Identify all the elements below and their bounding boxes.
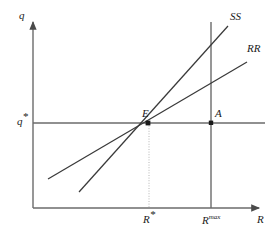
y-axis-label: q [19, 10, 25, 21]
tick-label-q-star-sup: * [23, 110, 29, 122]
curve-rr [48, 62, 247, 179]
point-label-e: E [142, 108, 149, 119]
tick-label-r-max-sup: max [209, 213, 221, 221]
diagram-canvas [0, 0, 280, 239]
point-a-marker [209, 121, 213, 125]
x-axis-label: R [257, 214, 264, 225]
curve-label-rr: RR [247, 43, 260, 54]
tick-label-r-max: Rmax [202, 214, 220, 226]
tick-label-q-star: q* [17, 116, 28, 127]
tick-label-r-star-base: R [143, 213, 150, 225]
point-e-marker [146, 121, 151, 126]
tick-label-r-max-base: R [202, 214, 209, 226]
curve-label-ss: SS [230, 11, 241, 22]
point-label-a: A [215, 108, 222, 119]
tick-label-r-star: R* [143, 214, 155, 225]
tick-label-r-star-sup: * [150, 208, 156, 220]
curve-ss [79, 26, 228, 192]
economics-diagram: q R SS RR E A q* R* Rmax [0, 0, 280, 239]
